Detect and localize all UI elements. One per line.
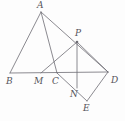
segment-A-D xyxy=(41,12,108,72)
figure-canvas xyxy=(0,0,125,121)
segment-A-C xyxy=(41,12,57,73)
segment-P-D xyxy=(77,42,108,72)
point-label-a: A xyxy=(37,1,44,10)
segment-M-P xyxy=(41,42,77,73)
point-label-n: N xyxy=(70,90,78,99)
segment-D-E xyxy=(87,72,108,101)
point-label-b: B xyxy=(6,77,13,86)
segment-A-B xyxy=(10,12,41,73)
point-label-d: D xyxy=(111,76,118,85)
point-label-e: E xyxy=(83,104,90,113)
segments-layer xyxy=(10,12,108,101)
segment-B-D xyxy=(10,72,108,73)
point-label-m: M xyxy=(34,77,43,86)
point-label-p: P xyxy=(75,29,81,38)
point-label-c: C xyxy=(52,77,59,86)
point-markers-layer xyxy=(76,41,79,44)
geometry-figure: ABMCDPNE xyxy=(0,0,125,121)
point-marker-p xyxy=(76,41,79,44)
